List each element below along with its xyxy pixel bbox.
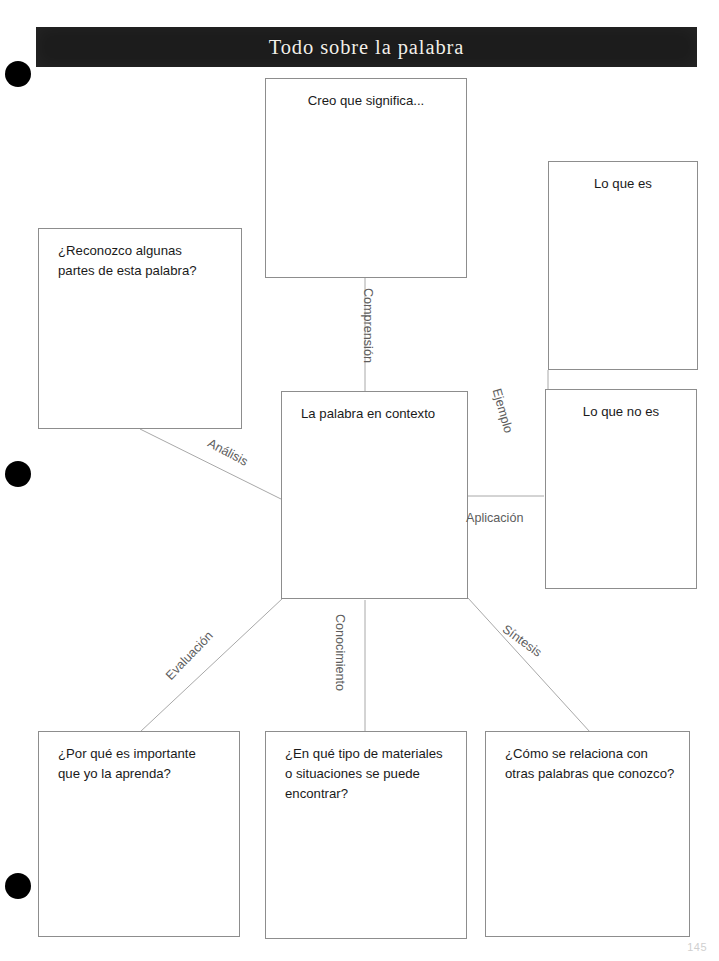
edge-label-ejemplo: Ejemplo (490, 387, 516, 435)
box-label-lo-que-no-es: Lo que no es (546, 402, 696, 422)
connector-evaluacion (140, 598, 283, 732)
box-como-se-relaciona[interactable]: ¿Cómo se relaciona con otras palabras qu… (485, 731, 690, 937)
edge-label-sintesis: Síntesis (500, 622, 544, 660)
box-label-lo-que-es: Lo que es (549, 174, 697, 194)
box-en-que-materiales[interactable]: ¿En qué tipo de materiales o situaciones… (265, 731, 467, 939)
hole-punch-mark-middle (5, 461, 31, 487)
box-la-palabra-en-contexto[interactable]: La palabra en contexto (281, 391, 468, 599)
box-label-como-se-relaciona: ¿Cómo se relaciona con otras palabras qu… (486, 744, 689, 784)
box-label-la-palabra-en-contexto: La palabra en contexto (282, 404, 467, 424)
worksheet-page: Todo sobre la palabra Creo que significa… (0, 0, 719, 961)
box-por-que-importante[interactable]: ¿Por qué es importante que yo la aprenda… (38, 731, 240, 937)
page-title: Todo sobre la palabra (36, 27, 697, 67)
page-number: 145 (687, 941, 707, 953)
box-reconozco-partes[interactable]: ¿Reconozco algunas partes de esta palabr… (38, 228, 242, 429)
box-label-creo-que-significa: Creo que significa... (266, 91, 466, 111)
box-label-reconozco-partes: ¿Reconozco algunas partes de esta palabr… (39, 241, 241, 281)
hole-punch-mark-bottom (5, 873, 31, 899)
edge-label-analisis: Análisis (205, 436, 250, 469)
box-lo-que-es[interactable]: Lo que es (548, 161, 698, 370)
edge-label-evaluacion: Evaluación (163, 629, 216, 683)
edge-label-comprension: Comprensión (361, 288, 375, 363)
edge-label-conocimiento: Conocimiento (333, 614, 347, 691)
hole-punch-mark-top (5, 61, 31, 87)
edge-label-aplicacion: Aplicación (466, 511, 523, 525)
box-label-por-que-importante: ¿Por qué es importante que yo la aprenda… (39, 744, 239, 784)
box-creo-que-significa[interactable]: Creo que significa... (265, 78, 467, 278)
box-lo-que-no-es[interactable]: Lo que no es (545, 389, 697, 589)
box-label-en-que-materiales: ¿En qué tipo de materiales o situaciones… (266, 744, 466, 804)
connector-sintesis (468, 598, 590, 732)
title-banner: Todo sobre la palabra (36, 27, 697, 67)
